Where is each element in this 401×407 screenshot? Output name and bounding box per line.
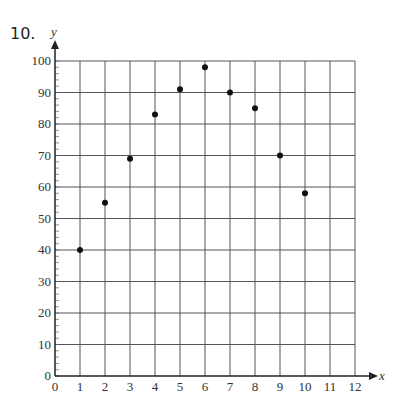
plot-area: 0123456789101112 0102030405060708090100 …	[0, 0, 401, 407]
y-tick-label: 70	[38, 148, 51, 163]
data-point	[227, 90, 233, 96]
y-tick-label: 30	[38, 274, 51, 289]
data-point	[277, 153, 283, 159]
x-tick-label: 5	[177, 379, 184, 394]
x-tick-label: 12	[349, 379, 362, 394]
x-tick-label: 6	[202, 379, 209, 394]
x-tick-label: 8	[252, 379, 259, 394]
data-point	[77, 247, 83, 253]
problem-number: 10.	[10, 24, 35, 43]
data-point	[102, 200, 108, 206]
scatter-chart: 10. 0123456789101112 0102030405060708090…	[0, 0, 401, 407]
x-tick-label: 7	[227, 379, 234, 394]
data-point	[152, 112, 158, 118]
data-point	[202, 64, 208, 70]
x-tick-label: 10	[299, 379, 312, 394]
x-axis-label: x	[378, 368, 385, 383]
x-tick-label: 1	[77, 379, 84, 394]
y-tick-labels: 0102030405060708090100	[32, 53, 52, 383]
y-tick-label: 10	[38, 337, 51, 352]
x-tick-label: 2	[102, 379, 109, 394]
y-tick-label: 20	[38, 305, 51, 320]
y-tick-label: 50	[38, 211, 51, 226]
y-axis-label: y	[49, 24, 57, 39]
y-tick-label: 0	[45, 368, 52, 383]
y-tick-label: 40	[38, 242, 51, 257]
y-tick-label: 90	[38, 85, 51, 100]
y-tick-label: 100	[32, 53, 52, 68]
x-tick-label: 9	[277, 379, 284, 394]
axes	[51, 40, 378, 380]
y-tick-label: 60	[38, 179, 51, 194]
y-tick-label: 80	[38, 116, 51, 131]
x-tick-label: 4	[152, 379, 159, 394]
data-point	[252, 105, 258, 111]
x-tick-label: 11	[324, 379, 337, 394]
x-axis-arrow-icon	[369, 372, 378, 380]
data-point	[177, 86, 183, 92]
x-tick-label: 0	[52, 379, 59, 394]
y-axis-arrow-icon	[51, 40, 59, 49]
data-point	[302, 190, 308, 196]
data-point	[127, 156, 133, 162]
x-tick-label: 3	[127, 379, 134, 394]
x-tick-labels: 0123456789101112	[52, 379, 362, 394]
grid-lines	[55, 61, 355, 376]
